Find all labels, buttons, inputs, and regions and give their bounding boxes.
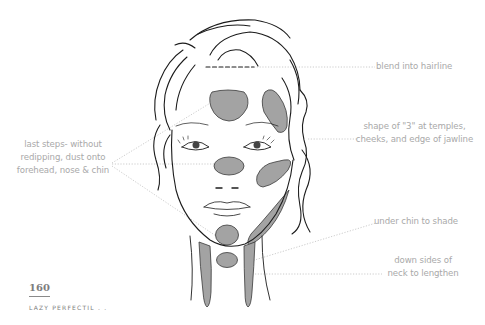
neck-left-shape bbox=[199, 242, 211, 307]
annotation-line: forehead, nose & chin bbox=[14, 164, 112, 177]
annotation-line: neck to lengthen bbox=[382, 267, 464, 280]
annotation-line: blend into hairline bbox=[376, 60, 452, 73]
annotation-under-chin: under chin to shade bbox=[374, 215, 458, 228]
cheek-contour-shape bbox=[257, 160, 291, 187]
annotation-blend-hairline: blend into hairline bbox=[376, 60, 452, 73]
annotation-neck-sides: down sides of neck to lengthen bbox=[382, 254, 464, 280]
temple-contour-shape bbox=[262, 90, 287, 133]
annotation-line: redipping, dust onto bbox=[14, 151, 112, 164]
forehead-highlight-shape bbox=[210, 90, 248, 121]
page-number: 160 bbox=[29, 282, 50, 293]
annotation-line: cheeks, and edge of jawline bbox=[352, 133, 477, 146]
annotation-line: under chin to shade bbox=[374, 215, 458, 228]
running-head: LAZY PERFECTIL . . bbox=[29, 304, 107, 311]
jawline-contour-shape bbox=[248, 190, 289, 245]
page-number-rule bbox=[29, 296, 50, 297]
neck-right-shape bbox=[244, 242, 255, 307]
contour-shading bbox=[199, 90, 291, 307]
annotation-line: last steps- without bbox=[14, 138, 112, 151]
contour-diagram-page: last steps- without redipping, dust onto… bbox=[0, 0, 485, 325]
annotation-line: down sides of bbox=[382, 254, 464, 267]
leader-forehead bbox=[112, 102, 212, 163]
annotation-line: shape of "3" at temples, bbox=[352, 120, 477, 133]
under-chin-shape bbox=[217, 253, 238, 268]
annotation-last-steps: last steps- without redipping, dust onto… bbox=[14, 138, 112, 177]
annotation-three-shape: shape of "3" at temples, cheeks, and edg… bbox=[352, 120, 477, 146]
nose-highlight-shape bbox=[214, 157, 244, 175]
chin-highlight-shape bbox=[216, 225, 239, 245]
